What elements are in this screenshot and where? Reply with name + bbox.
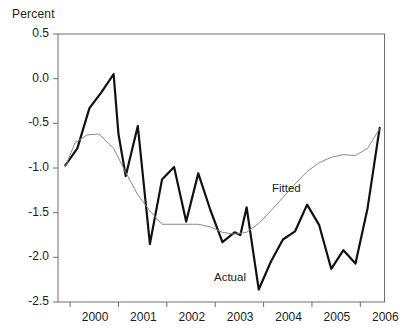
series-label-fitted: Fitted	[272, 182, 301, 194]
y-tick-label: -1.0	[13, 160, 49, 174]
x-tick-label: 2006	[360, 310, 403, 324]
y-tick-label: -2.0	[13, 249, 49, 263]
x-tick-label: 2005	[312, 310, 362, 324]
y-tick-label: 0.5	[13, 26, 49, 40]
series-label-actual: Actual	[214, 271, 246, 283]
y-tick-label: -2.5	[13, 294, 49, 308]
y-tick-label: -0.5	[13, 115, 49, 129]
x-tick-label: 2000	[70, 310, 120, 324]
y-tick-label: 0.0	[13, 71, 49, 85]
y-tick-label: -1.5	[13, 205, 49, 219]
x-tick-label: 2003	[215, 310, 265, 324]
x-tick-label: 2004	[264, 310, 314, 324]
x-tick-label: 2002	[167, 310, 217, 324]
y-axis-title: Percent	[12, 7, 55, 21]
x-tick-label: 2001	[118, 310, 168, 324]
